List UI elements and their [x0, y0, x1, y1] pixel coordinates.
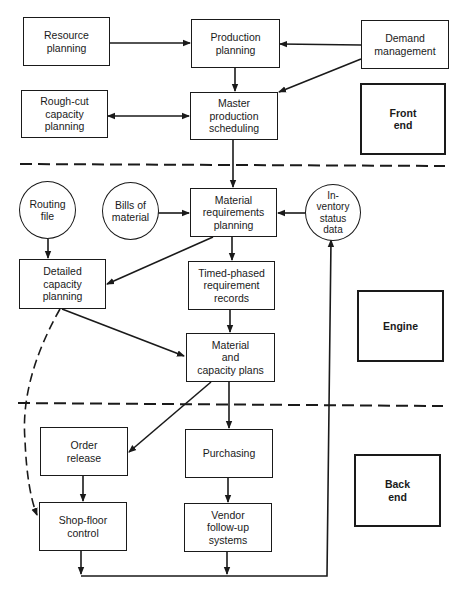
- node-order-release: Order release: [40, 427, 128, 476]
- edge-detailed-to-matcap: [62, 309, 184, 356]
- node-shop-floor-control: Shop-floor control: [39, 502, 127, 551]
- node-master-production-scheduling: Master production scheduling: [190, 92, 278, 140]
- divider-engine-back: [18, 403, 443, 406]
- node-timed-phased-requirement-records: Timed-phased requirement records: [188, 261, 275, 310]
- node-detailed-capacity-planning: Detailed capacity planning: [19, 259, 106, 309]
- node-material-requirements-planning: Material requirements planning: [190, 188, 277, 237]
- node-rough-cut-capacity-planning: Rough-cut capacity planning: [21, 90, 108, 138]
- node-production-planning: Production planning: [191, 19, 280, 68]
- node-routing-file: Routing file: [19, 181, 76, 239]
- section-label-front-end: Front end: [360, 83, 446, 155]
- node-inventory-status-data: In- ventory status data: [305, 184, 361, 241]
- node-vendor-follow-up-systems: Vendor follow-up systems: [184, 503, 272, 552]
- edge-detailed-to-shopfloor-dashed: [24, 309, 60, 515]
- edge-demand-to-production: [280, 44, 361, 45]
- node-purchasing: Purchasing: [185, 429, 273, 478]
- edge-demand-to-master: [279, 59, 361, 92]
- node-demand-management: Demand management: [361, 20, 449, 69]
- node-material-and-capacity-plans: Material and capacity plans: [186, 333, 275, 382]
- node-resource-planning: Resource planning: [23, 17, 110, 66]
- section-label-back-end: Back end: [354, 454, 441, 527]
- node-bills-of-material: Bills of material: [102, 182, 159, 240]
- section-label-engine: Engine: [357, 290, 444, 362]
